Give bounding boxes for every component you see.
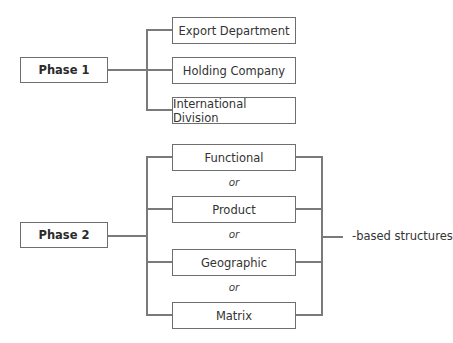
phase-2-right-branch-4 (296, 314, 323, 316)
phase-1-box: Phase 1 (20, 57, 108, 83)
geographic-label: Geographic (201, 256, 267, 270)
export-department-box: Export Department (172, 17, 296, 44)
functional-box: Functional (172, 144, 296, 171)
phase-2-left-branch-3 (146, 261, 172, 263)
functional-label: Functional (204, 151, 263, 165)
phase-2-box: Phase 2 (20, 222, 108, 248)
holding-company-label: Holding Company (183, 64, 285, 78)
matrix-label: Matrix (216, 309, 252, 323)
phase-1-connector (108, 69, 148, 71)
matrix-box: Matrix (172, 302, 296, 329)
geographic-box: Geographic (172, 249, 296, 276)
phase-2-left-branch-1 (146, 156, 172, 158)
holding-company-box: Holding Company (172, 57, 296, 84)
international-division-label: International Division (173, 97, 295, 125)
or-separator-2: or (172, 228, 296, 240)
phase-1-label: Phase 1 (38, 63, 89, 77)
phase-2-right-branch-2 (296, 208, 323, 210)
international-division-box: International Division (172, 97, 296, 124)
product-box: Product (172, 196, 296, 223)
phase-1-branch-1 (146, 29, 172, 31)
phase-1-branch-3 (146, 109, 172, 111)
phase-2-connector (108, 235, 148, 237)
or-separator-1: or (172, 176, 296, 188)
or-separator-3: or (172, 281, 296, 293)
phase-2-label: Phase 2 (38, 228, 89, 242)
phase-2-right-branch-3 (296, 261, 323, 263)
based-structures-label: -based structures (352, 229, 453, 243)
phase-1-branch-2 (146, 69, 172, 71)
phase-2-left-trunk (146, 156, 148, 316)
product-label: Product (212, 203, 256, 217)
phase-2-left-branch-2 (146, 208, 172, 210)
export-department-label: Export Department (179, 24, 290, 38)
phase-2-left-branch-4 (146, 314, 172, 316)
phase-2-output-connector (321, 236, 343, 238)
phase-2-right-branch-1 (296, 156, 323, 158)
